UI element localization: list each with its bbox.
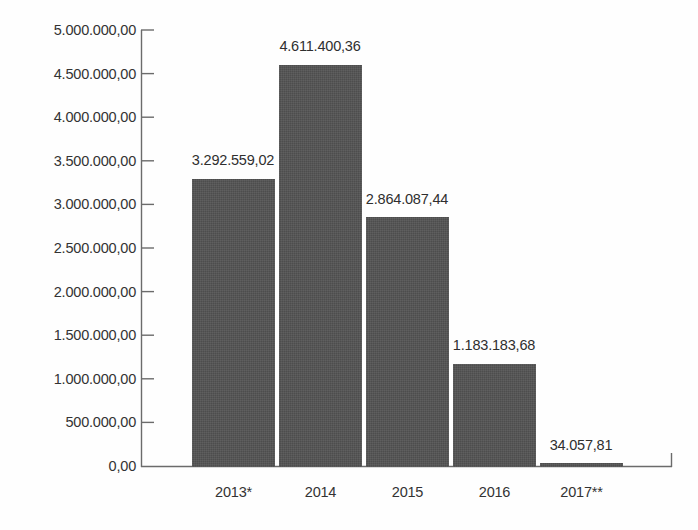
x-tick-label-2013: 2013* xyxy=(183,484,284,500)
y-tick-label-0: 0,00 xyxy=(14,458,136,474)
y-tick-label-5000000: 5.000.000,00 xyxy=(14,22,136,38)
y-tick-label-2000000: 2.000.000,00 xyxy=(14,284,136,300)
y-tick-label-4000000: 4.000.000,00 xyxy=(14,109,136,125)
x-tick-label-2015: 2015 xyxy=(357,484,458,500)
bar-value-label-2015: 2.864.087,44 xyxy=(337,191,477,207)
bar-value-label-2016: 1.183.183,68 xyxy=(424,337,564,353)
bar-2017 xyxy=(540,463,623,467)
bar-2014 xyxy=(279,65,362,467)
y-tick-label-1000000: 1.000.000,00 xyxy=(14,371,136,387)
bar-value-label-2013: 3.292.559,02 xyxy=(163,152,303,168)
y-tick-label-3000000: 3.000.000,00 xyxy=(14,196,136,212)
x-tick-label-2016: 2016 xyxy=(444,484,545,500)
y-tick-label-500000: 500.000,00 xyxy=(14,414,136,430)
y-tick-label-4500000: 4.500.000,00 xyxy=(14,66,136,82)
y-tick-label-2500000: 2.500.000,00 xyxy=(14,240,136,256)
bar-chart: 5.000.000,00 4.500.000,00 4.000.000,00 3… xyxy=(0,0,698,530)
bar-2013 xyxy=(192,179,275,467)
bar-value-label-2014: 4.611.400,36 xyxy=(250,38,390,54)
bar-value-label-2017: 34.057,81 xyxy=(521,437,641,453)
y-axis-ticks xyxy=(141,30,154,422)
x-tick-label-2017: 2017** xyxy=(531,484,632,500)
x-tick-label-2014: 2014 xyxy=(270,484,371,500)
y-tick-label-1500000: 1.500.000,00 xyxy=(14,327,136,343)
y-tick-label-3500000: 3.500.000,00 xyxy=(14,153,136,169)
